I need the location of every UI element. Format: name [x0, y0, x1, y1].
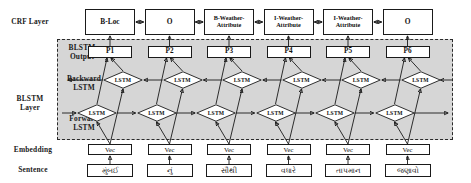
figure-canvas: CRF Layer BLSTM Output Backward LSTM BLS…: [0, 0, 471, 183]
sentence-token-box-5: તાપમાન: [325, 164, 371, 177]
lstm-cell-label: LSTM: [256, 104, 296, 122]
sentence-token-box-1: મુંબઈ: [87, 164, 133, 177]
forward-lstm-cell-2: LSTM: [137, 104, 177, 122]
blstm-output-box-6: P6: [386, 46, 430, 58]
lstm-cell-label: LSTM: [196, 104, 236, 122]
blstm-output-box-1: P1: [88, 46, 132, 58]
row-label-backward-lstm: Backward LSTM: [60, 75, 108, 92]
lstm-cell-label: LSTM: [375, 104, 415, 122]
lstm-cell-label: LSTM: [401, 71, 441, 89]
sentence-token-box-4: વધારે: [266, 164, 312, 177]
row-label-sentence: Sentence: [4, 166, 62, 175]
lstm-cell-label: LSTM: [163, 71, 203, 89]
crf-tag-box-3: B-​Weather-​Attribute: [204, 9, 254, 35]
row-label-crf-layer: CRF Layer: [4, 18, 56, 27]
blstm-output-box-3: P3: [207, 46, 251, 58]
lstm-cell-label: LSTM: [103, 71, 143, 89]
forward-lstm-cell-1: LSTM: [77, 104, 117, 122]
embedding-vec-box-6: Vec: [386, 144, 430, 155]
forward-lstm-cell-6: LSTM: [375, 104, 415, 122]
lstm-cell-label: LSTM: [341, 71, 381, 89]
embedding-vec-box-4: Vec: [267, 144, 311, 155]
lstm-cell-label: LSTM: [137, 104, 177, 122]
row-label-blstm-layer: BLSTM Layer: [4, 95, 56, 112]
row-label-embedding: Embedding: [4, 146, 62, 155]
embedding-vec-box-5: Vec: [326, 144, 370, 155]
blstm-output-box-2: P2: [148, 46, 192, 58]
embedding-vec-box-1: Vec: [88, 144, 132, 155]
crf-tag-box-1: B-​Loc: [85, 9, 135, 35]
blstm-output-box-5: P5: [326, 46, 370, 58]
embedding-vec-box-2: Vec: [148, 144, 192, 155]
backward-lstm-cell-3: LSTM: [222, 71, 262, 89]
sentence-token-box-2: નું: [147, 164, 193, 177]
forward-lstm-cell-5: LSTM: [315, 104, 355, 122]
blstm-output-box-4: P4: [267, 46, 311, 58]
crf-tag-box-5: I-​Weather-​Attribute: [323, 9, 373, 35]
lstm-cell-label: LSTM: [315, 104, 355, 122]
forward-lstm-cell-3: LSTM: [196, 104, 236, 122]
embedding-vec-box-3: Vec: [207, 144, 251, 155]
crf-tag-box-2: O: [145, 9, 195, 35]
backward-lstm-cell-2: LSTM: [163, 71, 203, 89]
sentence-token-box-6: જણાવો: [385, 164, 431, 177]
backward-lstm-cell-4: LSTM: [282, 71, 322, 89]
backward-lstm-cell-1: LSTM: [103, 71, 143, 89]
forward-lstm-cell-4: LSTM: [256, 104, 296, 122]
lstm-cell-label: LSTM: [282, 71, 322, 89]
backward-lstm-cell-5: LSTM: [341, 71, 381, 89]
lstm-cell-label: LSTM: [77, 104, 117, 122]
crf-tag-box-4: I-​Weather-​Attribute: [264, 9, 314, 35]
crf-tag-box-6: O: [383, 9, 433, 35]
backward-lstm-cell-6: LSTM: [401, 71, 441, 89]
lstm-cell-label: LSTM: [222, 71, 262, 89]
sentence-token-box-3: સૌથી: [206, 164, 252, 177]
